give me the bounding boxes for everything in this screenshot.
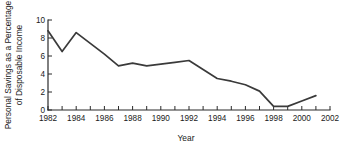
- y-tick-label: 2: [40, 88, 45, 97]
- x-tick-label: 1990: [152, 114, 171, 123]
- y-tick-label: 6: [40, 52, 45, 61]
- y-axis-title: Personal Savings as a Percentageof Dispo…: [3, 0, 24, 129]
- x-tick-label: 1996: [236, 114, 255, 123]
- y-axis-ticks: 0246810: [36, 16, 52, 115]
- x-tick-label: 1998: [264, 114, 283, 123]
- chart-container: Personal Savings as a Percentageof Dispo…: [0, 0, 342, 145]
- x-tick-label: 2000: [293, 114, 312, 123]
- y-tick-label: 4: [40, 70, 45, 79]
- x-tick-label: 1988: [123, 114, 142, 123]
- y-tick-label: 10: [36, 16, 46, 25]
- x-axis-ticks: 1982198419861988199019921994199619982000…: [39, 106, 340, 123]
- x-tick-label: 1986: [95, 114, 114, 123]
- x-tick-label: 1992: [180, 114, 199, 123]
- y-axis-title-line-2: of Disposable Income: [14, 24, 24, 105]
- data-series-line: [48, 31, 316, 107]
- line-chart: Personal Savings as a Percentageof Dispo…: [0, 0, 342, 145]
- x-axis-title: Year: [178, 133, 195, 143]
- x-tick-label: 1982: [39, 114, 58, 123]
- x-tick-label: 1984: [67, 114, 86, 123]
- x-tick-label: 1994: [208, 114, 227, 123]
- x-tick-label: 2002: [321, 114, 340, 123]
- y-axis-title-line-1: Personal Savings as a Percentage: [3, 0, 13, 129]
- y-tick-label: 8: [40, 34, 45, 43]
